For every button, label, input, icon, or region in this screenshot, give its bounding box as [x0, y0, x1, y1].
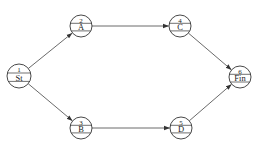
edge-5-to-6 — [189, 85, 231, 121]
node-label: B — [78, 124, 84, 134]
node-a: 2A — [70, 15, 92, 37]
node-label: Fin — [234, 73, 246, 83]
node-label: A — [78, 22, 85, 32]
node-c: 4C — [169, 15, 191, 37]
node-b: 3B — [70, 117, 92, 139]
node-label: C — [177, 22, 183, 32]
nodes-layer: 1St2A3B4C5D6Fin — [7, 15, 251, 139]
edge-4-to-6 — [188, 33, 231, 70]
edge-1-to-3 — [28, 84, 72, 121]
node-st: 1St — [7, 64, 31, 88]
network-diagram: 1St2A3B4C5D6Fin — [0, 0, 263, 153]
edge-1-to-2 — [28, 33, 72, 68]
node-d: 5D — [170, 117, 192, 139]
node-fin: 6Fin — [229, 66, 251, 88]
edges-layer — [28, 26, 231, 128]
node-label: D — [178, 124, 184, 134]
node-label: St — [15, 73, 23, 83]
